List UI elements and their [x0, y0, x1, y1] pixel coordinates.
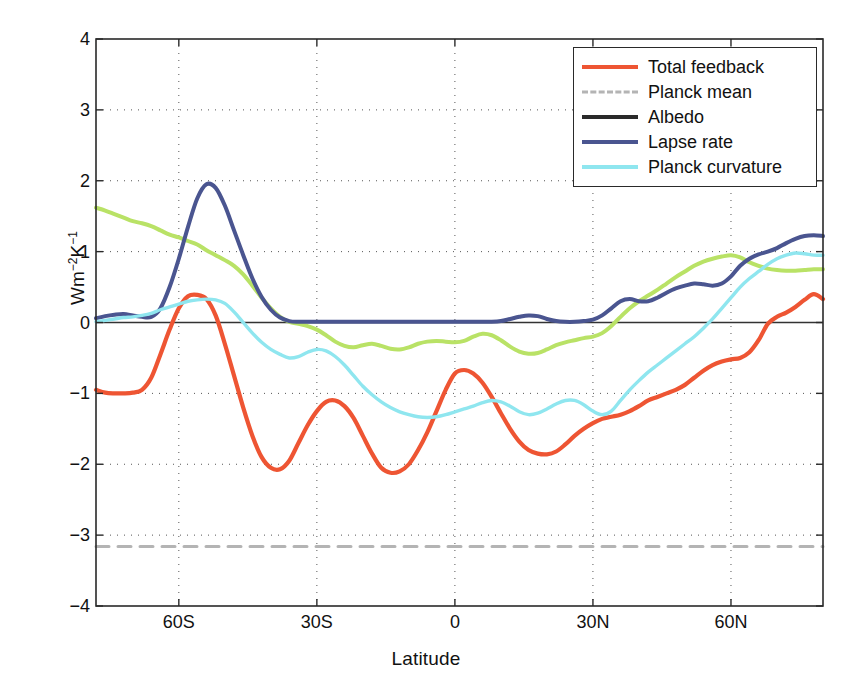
y-tick-label: 4 — [80, 29, 90, 50]
x-tick-label: 0 — [450, 612, 460, 633]
legend-item-label: Planck mean — [648, 83, 752, 101]
y-tick-label: −1 — [69, 383, 90, 404]
x-tick-label: 60S — [163, 612, 195, 633]
legend-item: Planck mean — [582, 79, 808, 104]
y-tick-label: 1 — [80, 241, 90, 262]
x-axis-label: Latitude — [0, 648, 852, 670]
y-tick-label: 2 — [80, 170, 90, 191]
x-tick-label: 60N — [714, 612, 747, 633]
series-line — [96, 208, 823, 354]
x-tick-label: 30N — [576, 612, 609, 633]
legend-color-swatch — [582, 85, 638, 99]
x-tick-label: 30S — [301, 612, 333, 633]
legend-item-label: Albedo — [648, 108, 704, 126]
y-tick-label: 3 — [80, 99, 90, 120]
series-line — [96, 184, 823, 322]
figure-canvas: Wm−2K−1 Latitude 60S30S030N60N−4−3−2−101… — [0, 0, 852, 695]
legend-item: Total feedback — [582, 54, 808, 79]
legend-item: Albedo — [582, 104, 808, 129]
legend-item-label: Lapse rate — [648, 133, 733, 151]
series-line — [96, 253, 823, 417]
y-tick-label: −3 — [69, 525, 90, 546]
legend-color-swatch — [582, 135, 638, 149]
legend-item-label: Planck curvature — [648, 158, 782, 176]
chart-legend: Total feedbackPlanck meanAlbedoLapse rat… — [573, 47, 817, 187]
legend-item: Planck curvature — [582, 154, 808, 179]
y-tick-label: −2 — [69, 454, 90, 475]
y-tick-label: −4 — [69, 596, 90, 617]
y-tick-label: 0 — [80, 312, 90, 333]
legend-item-label: Total feedback — [648, 58, 764, 76]
legend-color-swatch — [582, 110, 638, 124]
legend-item: Lapse rate — [582, 129, 808, 154]
y-axis-label-wrapper: Wm−2K−1 — [58, 198, 98, 338]
legend-color-swatch — [582, 60, 638, 74]
legend-color-swatch — [582, 160, 638, 174]
